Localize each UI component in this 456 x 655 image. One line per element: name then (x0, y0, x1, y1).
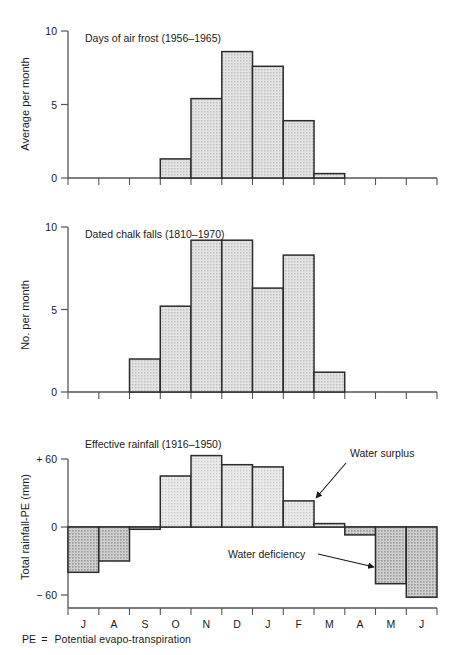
bar-D (222, 465, 253, 527)
month-label-5: D (233, 618, 241, 630)
y-tick-label-5: 5 (51, 304, 57, 316)
y-tick-label-zero: 0 (51, 521, 57, 533)
annotation-water-deficiency-arrow (318, 554, 374, 567)
x-tick-group (68, 608, 437, 615)
y-tick-label-plus60: + 60 (36, 453, 57, 465)
y-axis-title-chalk-falls: No. per month (19, 280, 31, 350)
bar-D (222, 52, 253, 178)
bar-O (160, 476, 191, 527)
footnote-key: PE (22, 633, 36, 645)
bar-A2 (345, 527, 376, 535)
bar-J2 (253, 288, 284, 392)
bar-N (191, 456, 222, 527)
bar-A1 (99, 527, 130, 561)
bar-F (283, 501, 314, 527)
month-label-3: O (172, 618, 180, 630)
bar-M (314, 372, 345, 392)
x-tick-group (68, 178, 437, 185)
bar-J2 (253, 66, 284, 178)
chalk-falls-plot: 10 5 0 (0, 210, 456, 425)
bar-S (130, 527, 161, 529)
month-label-6: J (265, 618, 270, 630)
bar-D (222, 240, 253, 392)
chart-panel-chalk-falls: 10 5 0 (0, 210, 456, 425)
bar-J2 (253, 467, 284, 527)
x-tick-group (68, 392, 437, 399)
bar-series-air-frost (160, 52, 344, 178)
annotation-water-surplus-arrow (316, 463, 346, 498)
month-label-2: S (141, 618, 148, 630)
y-tick-label-10: 10 (45, 25, 57, 37)
air-frost-plot: 10 5 0 (0, 0, 456, 210)
footnote-text: Potential evapo-transpiration (54, 633, 191, 645)
bar-O (160, 306, 191, 392)
month-label-9: A (357, 618, 364, 630)
figure-footnote: PE=Potential evapo-transpiration (22, 633, 191, 645)
chart-panel-air-frost: 10 5 0 (0, 0, 456, 210)
bar-M (314, 174, 345, 178)
effective-rainfall-plot: + 60 0 − 60 (0, 425, 456, 635)
panel-title-effective-rainfall: Effective rainfall (1916–1950) (85, 438, 221, 450)
panel-title-air-frost: Days of air frost (1956–1965) (85, 32, 221, 44)
bar-N (191, 240, 222, 392)
bar-series-chalk-falls (130, 240, 345, 392)
y-tick-label-10: 10 (45, 221, 57, 233)
month-label-1: A (111, 618, 118, 630)
footnote-equals: = (36, 633, 54, 645)
month-label-10: M (387, 618, 396, 630)
y-tick-label-minus60: − 60 (36, 589, 57, 601)
y-axis-title-air-frost: Average per month (19, 57, 31, 150)
figure-root: 10 5 0 (0, 0, 456, 655)
bar-N (191, 99, 222, 178)
annotation-water-deficiency-label: Water deficiency (228, 548, 306, 560)
month-label-4: N (203, 618, 211, 630)
y-tick-label-5: 5 (51, 99, 57, 111)
bar-S (130, 359, 161, 392)
bar-J3 (406, 527, 437, 597)
bar-O (160, 159, 191, 178)
chart-panel-effective-rainfall: + 60 0 − 60 (0, 425, 456, 635)
bar-M2 (376, 527, 407, 584)
bar-M1 (314, 524, 345, 527)
y-tick-label-0: 0 (51, 172, 57, 184)
bar-series-effective-rainfall (68, 456, 437, 598)
bar-F (283, 121, 314, 178)
annotation-water-surplus-label: Water surplus (350, 447, 414, 459)
panel-title-chalk-falls: Dated chalk falls (1810–1970) (85, 228, 225, 240)
month-label-11: J (419, 618, 424, 630)
y-tick-label-0: 0 (51, 386, 57, 398)
month-label-8: M (325, 618, 334, 630)
bar-F (283, 255, 314, 392)
month-label-group: J A S O N D J F M A M J (81, 618, 424, 630)
month-label-7: F (295, 618, 301, 630)
month-label-0: J (81, 618, 86, 630)
y-axis-title-effective-rainfall: Total rainfall-PE (mm) (19, 474, 31, 580)
bar-J1 (68, 527, 99, 572)
